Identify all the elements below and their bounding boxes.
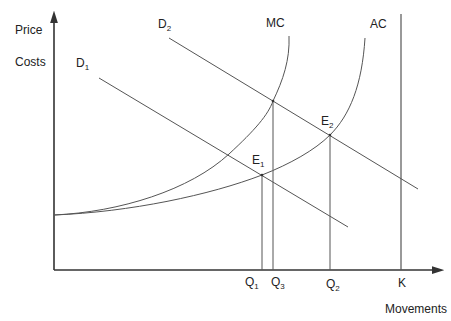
e2-label-base: E <box>321 114 329 128</box>
d1-label-sub: 1 <box>85 63 89 72</box>
q3-label: Q3 <box>271 276 285 291</box>
ac-curve <box>54 38 365 215</box>
q2-label-sub: 2 <box>335 284 339 293</box>
x-axis-label: Movements <box>385 303 447 315</box>
mc-curve <box>54 36 289 215</box>
q1-label-base: Q <box>245 275 254 289</box>
e1-label-base: E <box>252 153 260 167</box>
q1-label-sub: 1 <box>254 282 258 291</box>
e1-point <box>261 174 264 177</box>
q3-label-sub: 3 <box>280 282 284 291</box>
q1-label: Q1 <box>245 276 259 291</box>
e1-label-sub: 1 <box>260 160 264 169</box>
y-axis-label-price: Price <box>15 24 42 36</box>
mc-d2-point <box>272 100 275 103</box>
d2-label: D2 <box>158 18 171 33</box>
d2-line <box>169 38 418 189</box>
e1-label: E1 <box>252 154 264 169</box>
y-axis-label-costs: Costs <box>15 56 46 68</box>
e2-label: E2 <box>321 115 333 130</box>
e2-label-sub: 2 <box>329 121 333 130</box>
mc-label: MC <box>266 17 285 29</box>
d2-label-base: D <box>158 17 167 31</box>
e2-point <box>329 134 332 137</box>
d1-line <box>99 78 348 227</box>
d2-label-sub: 2 <box>167 24 171 33</box>
d1-label: D1 <box>76 57 89 72</box>
k-label: K <box>398 277 406 289</box>
q2-label: Q2 <box>326 278 340 293</box>
q3-label-base: Q <box>271 275 280 289</box>
d1-label-base: D <box>76 56 85 70</box>
q2-label-base: Q <box>326 277 335 291</box>
diagram-canvas <box>0 0 451 321</box>
ac-label: AC <box>370 18 387 30</box>
